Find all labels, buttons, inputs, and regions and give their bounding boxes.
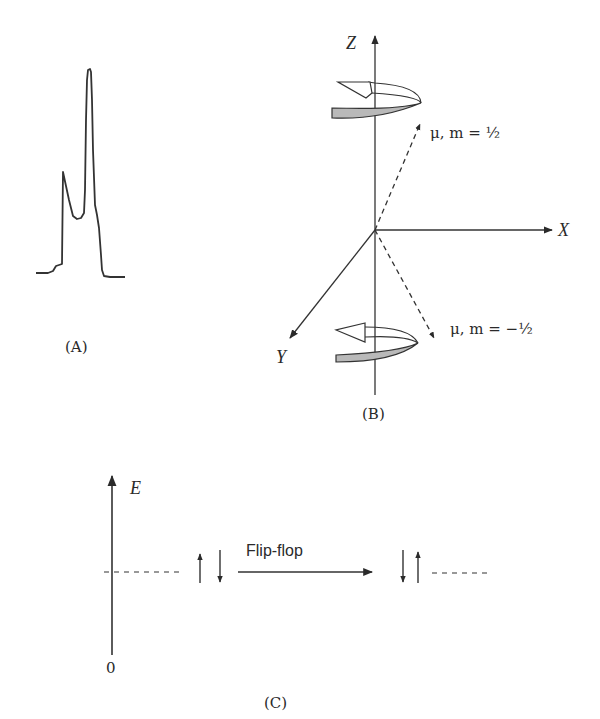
precession-arrow-icon bbox=[332, 82, 421, 118]
panel-a: (A) bbox=[36, 69, 125, 356]
spin-up-label: μ, m = ½ bbox=[430, 124, 500, 142]
final-spin-state bbox=[403, 550, 418, 583]
panel-a-label: (A) bbox=[65, 338, 88, 356]
y-axis bbox=[290, 230, 375, 338]
flip-flop-label: Flip-flop bbox=[246, 542, 303, 559]
panel-c: E 0 Flip-flop (C) bbox=[104, 476, 490, 712]
energy-axis-label: E bbox=[129, 478, 141, 498]
spin-down-vector bbox=[375, 230, 434, 338]
panel-b-label: (B) bbox=[362, 405, 385, 423]
figure-canvas: (A) Z X Y μ, m = ½ μ, m = −½ bbox=[0, 0, 600, 719]
z-axis-label: Z bbox=[346, 33, 357, 53]
nmr-spectrum-trace bbox=[36, 69, 125, 277]
panel-c-label: (C) bbox=[264, 694, 287, 712]
precession-arrow-icon bbox=[336, 323, 418, 362]
initial-spin-state bbox=[200, 550, 220, 583]
spin-up-vector bbox=[375, 124, 420, 230]
origin-label: 0 bbox=[106, 659, 116, 677]
spin-down-label: μ, m = −½ bbox=[450, 320, 533, 338]
x-axis-label: X bbox=[557, 220, 570, 240]
panel-b: Z X Y μ, m = ½ μ, m = −½ (B) bbox=[276, 33, 570, 423]
y-axis-label: Y bbox=[276, 347, 288, 367]
